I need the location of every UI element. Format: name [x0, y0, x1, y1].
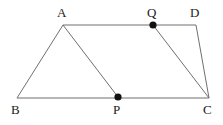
segment-ap: [63, 25, 118, 97]
vertex-label-a: A: [57, 6, 66, 19]
vertex-label-q: Q: [147, 6, 156, 19]
vertex-label-b: B: [11, 103, 20, 116]
vertex-label-p: P: [113, 103, 120, 116]
geometry-figure: ABCDPQ: [0, 0, 223, 125]
segment-dc: [196, 25, 209, 98]
edges-group: [17, 25, 209, 98]
vertex-label-c: C: [203, 103, 212, 116]
segment-ab: [17, 25, 63, 98]
point-marker-q: [149, 21, 156, 28]
vertex-label-d: D: [190, 6, 199, 19]
segment-qc: [153, 25, 209, 98]
points-group: [114, 21, 156, 100]
point-marker-p: [114, 93, 121, 100]
